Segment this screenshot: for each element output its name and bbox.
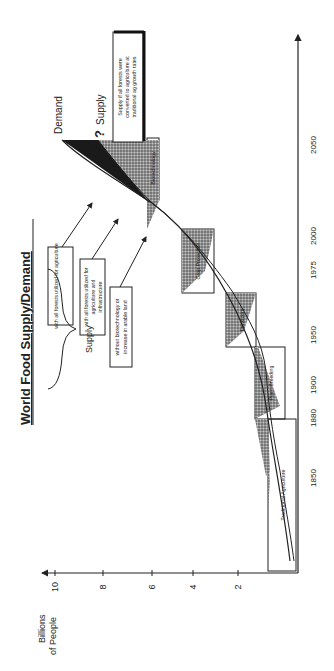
y-tick-label: 2 bbox=[233, 584, 243, 589]
brace-supply-label: Supply bbox=[84, 325, 94, 353]
chart-stage: World Food Supply/Demand 2 4 6 8 10 Bill… bbox=[0, 0, 334, 671]
chart-title: World Food Supply/Demand bbox=[18, 251, 33, 425]
svg-text:with all forests utilized for: with all forests utilized for agricultur… bbox=[53, 243, 59, 328]
svg-text:1950: 1950 bbox=[309, 326, 318, 344]
svg-text:increase in arable land: increase in arable land bbox=[122, 300, 128, 353]
bar-label: Traditional Agriculture bbox=[280, 469, 286, 520]
supply-label: Supply bbox=[95, 94, 106, 125]
svg-text:Supply if all forests were: Supply if all forests were bbox=[117, 58, 123, 115]
svg-text:1900: 1900 bbox=[309, 376, 318, 394]
supply-forests-box: Supply if all forests were converted to … bbox=[113, 31, 144, 142]
svg-text:without biotechnology or: without biotechnology or bbox=[114, 298, 120, 355]
svg-text:agriculture and: agriculture and bbox=[90, 279, 96, 314]
bar-label: Biotechnology bbox=[150, 151, 156, 185]
svg-text:1850: 1850 bbox=[309, 469, 318, 487]
demand-label: Demand bbox=[53, 96, 64, 134]
x-tick-labels: 1850 1880 1900 1950 1975 2000 2050 bbox=[309, 136, 318, 487]
svg-text:2000: 2000 bbox=[309, 227, 318, 245]
bar-label: Fertilizers bbox=[239, 308, 245, 331]
y-axis-label-line1: Billions bbox=[37, 614, 47, 643]
y-tick-label: 6 bbox=[147, 584, 157, 589]
bar-label: Plant Breeding bbox=[268, 366, 274, 401]
svg-text:with all forests utilized for: with all forests utilized for bbox=[83, 267, 89, 326]
y-tick-label: 4 bbox=[188, 584, 198, 589]
y-axis-label-line2: of People bbox=[48, 617, 58, 655]
y-tick-label: 10 bbox=[50, 582, 60, 592]
svg-text:1880: 1880 bbox=[309, 409, 318, 427]
supply-demand-chart: World Food Supply/Demand 2 4 6 8 10 Bill… bbox=[0, 0, 334, 671]
question-mark: ? bbox=[92, 130, 107, 138]
svg-text:converted to agriculture at: converted to agriculture at bbox=[124, 56, 130, 118]
svg-text:2050: 2050 bbox=[309, 136, 318, 154]
svg-text:traditional ag growth rates: traditional ag growth rates bbox=[131, 56, 137, 117]
box-no-biotech: without biotechnology or increase in ara… bbox=[110, 237, 146, 367]
svg-text:infrastructure: infrastructure bbox=[97, 281, 103, 312]
bar-label: Crop Protection bbox=[195, 243, 201, 280]
technology-bars bbox=[147, 138, 296, 571]
svg-text:1975: 1975 bbox=[309, 261, 318, 279]
y-tick-label: 8 bbox=[98, 584, 108, 589]
